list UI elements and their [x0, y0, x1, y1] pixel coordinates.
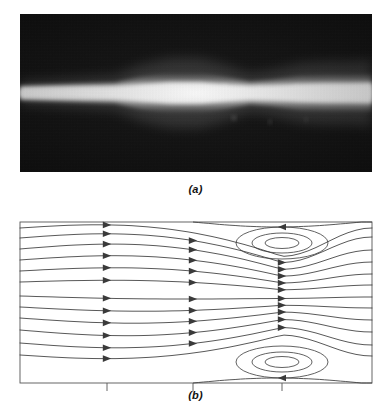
panel-a-photograph: [20, 14, 372, 172]
flow-arrowhead: [189, 340, 197, 347]
panel-a-caption: (a): [0, 183, 391, 195]
flow-arrowhead: [278, 273, 286, 280]
vortex-loop: [252, 352, 312, 372]
streamline: [20, 320, 372, 336]
flow-arrowhead: [278, 309, 286, 316]
vortex-direction-arrow: [278, 224, 286, 230]
flow-arrowhead: [189, 279, 197, 286]
vortex-loop: [265, 357, 299, 368]
streamline: [20, 328, 372, 348]
flow-arrowhead: [278, 324, 286, 331]
vortex-loop: [236, 346, 328, 378]
panel-b-streamline-diagram: [0, 215, 391, 395]
flow-arrowhead: [103, 332, 111, 339]
streamline: [20, 256, 372, 276]
flow-arrowhead: [278, 266, 286, 273]
flow-arrowhead: [103, 241, 111, 248]
flow-arrowhead: [278, 280, 286, 287]
flow-arrowhead: [103, 222, 111, 229]
flow-arrowhead: [189, 257, 197, 264]
streamline: [20, 280, 372, 290]
vortex-loop: [236, 227, 328, 259]
flow-arrowhead: [103, 320, 111, 327]
flow-arrowhead: [103, 277, 111, 284]
figure-container: (a) (b): [0, 0, 391, 414]
flow-arrowhead: [189, 296, 197, 303]
flow-arrowhead: [103, 295, 111, 302]
flow-arrowhead: [189, 237, 197, 244]
flow-arrowhead: [103, 344, 111, 351]
flow-arrowhead: [278, 259, 286, 266]
flow-arrowhead: [103, 230, 111, 237]
streamline-plot: [0, 215, 391, 395]
flow-arrowhead: [103, 252, 111, 259]
panel-b-caption: (b): [0, 389, 391, 401]
flow-arrowhead: [278, 316, 286, 323]
flow-arrowhead: [103, 264, 111, 271]
flow-arrowhead: [103, 355, 111, 362]
vortex-loop: [252, 233, 312, 253]
flow-arrowhead: [278, 295, 286, 302]
flow-arrowhead: [189, 329, 197, 336]
streamline: [20, 234, 372, 263]
flow-arrowhead: [278, 302, 286, 309]
photo-vignette: [20, 14, 372, 172]
flow-arrowhead: [278, 286, 286, 293]
flow-arrowhead: [189, 246, 197, 253]
flow-arrowhead: [189, 268, 197, 275]
flow-arrowhead: [103, 307, 111, 314]
vortex-loop: [265, 238, 299, 249]
vortex-direction-arrow: [278, 375, 286, 381]
flow-arrowhead: [189, 318, 197, 325]
flow-arrowhead: [189, 307, 197, 314]
